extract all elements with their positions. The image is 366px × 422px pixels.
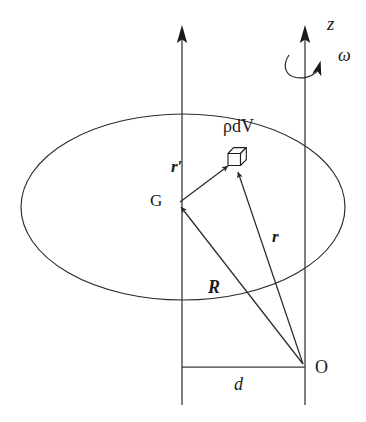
mass-element-cube	[228, 148, 246, 166]
label-axis-z: z	[327, 14, 334, 33]
vector-r-arrow	[238, 172, 303, 364]
label-vector-R: R	[208, 278, 220, 296]
label-vector-r: r	[272, 228, 279, 245]
vector-R-arrow	[181, 207, 303, 364]
label-vector-r-prime: r′	[171, 158, 182, 175]
rotation-arc	[285, 55, 316, 78]
physics-diagram: z ω ρdV r′ G r R O d	[0, 0, 366, 422]
diagram-canvas	[0, 0, 366, 422]
label-mass-element-rho-dv: ρdV	[223, 117, 254, 135]
label-distance-d: d	[234, 375, 243, 393]
body-outline-ellipse	[21, 114, 345, 300]
label-origin-o: O	[315, 358, 328, 376]
label-center-of-mass-g: G	[150, 192, 162, 209]
label-angular-velocity-omega: ω	[338, 46, 351, 64]
vector-r-prime-arrow	[180, 166, 228, 202]
